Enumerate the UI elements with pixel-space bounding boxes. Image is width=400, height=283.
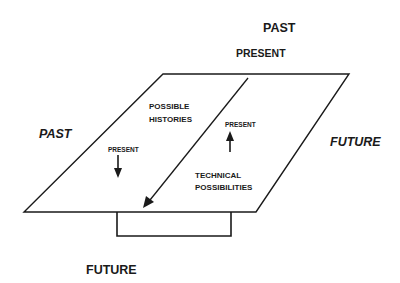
support-box xyxy=(117,212,231,236)
down-arrow-icon xyxy=(114,168,122,178)
top-past-label: PAST xyxy=(263,21,296,35)
possible-histories-line2: HISTORIES xyxy=(149,115,193,124)
bottom-future-label: FUTURE xyxy=(86,263,137,277)
left-present-label: PRESENT xyxy=(108,146,139,153)
right-present-label: PRESENT xyxy=(225,121,256,128)
left-past-label: PAST xyxy=(39,127,73,141)
technical-possibilities-line1: TECHNICAL xyxy=(195,171,241,180)
right-future-label: FUTURE xyxy=(330,135,381,149)
top-present-label: PRESENT xyxy=(236,47,286,59)
time-plane-parallelogram xyxy=(24,74,349,212)
possible-histories-line1: POSSIBLE xyxy=(149,102,190,111)
up-arrow-icon xyxy=(226,131,234,141)
technical-possibilities-line2: POSSIBILITIES xyxy=(195,183,253,192)
time-plane-diagram: PAST PRESENT PAST FUTURE FUTURE POSSIBLE… xyxy=(0,0,400,283)
